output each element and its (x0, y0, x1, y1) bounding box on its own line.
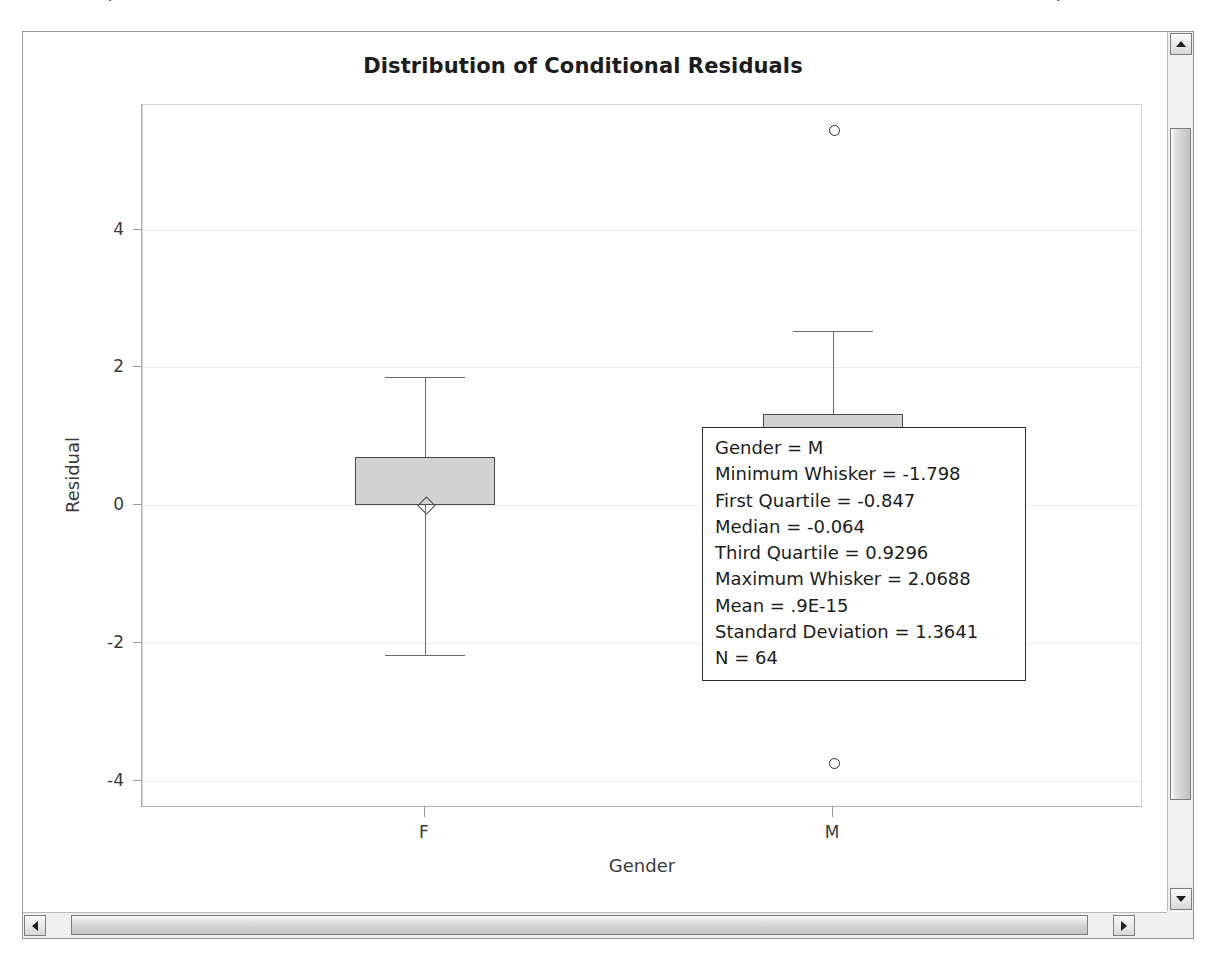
y-tick-mark-0 (133, 504, 142, 505)
x-tick-label-m: M (792, 822, 872, 842)
x-tick-mark-f (424, 807, 425, 817)
box-m-outlier-low[interactable] (829, 758, 840, 769)
box-f-lower-cap (385, 655, 465, 656)
tooltip-line-std-dev: Standard Deviation = 1.3641 (715, 619, 1013, 645)
chart-canvas: Distribution of Conditional Residuals (24, 33, 1142, 888)
chart-scroll-window: Distribution of Conditional Residuals (22, 31, 1194, 939)
y-axis-line (141, 104, 142, 807)
gridline-neg4 (143, 781, 1141, 782)
y-axis-title: Residual (62, 437, 83, 513)
vertical-scrollbar[interactable] (1167, 32, 1193, 911)
y-tick-mark-neg4 (133, 780, 142, 781)
tooltip-line-max-whisker: Maximum Whisker = 2.0688 (715, 566, 1013, 592)
tooltip-line-third-quartile: Third Quartile = 0.9296 (715, 540, 1013, 566)
gridline-2 (143, 367, 1141, 368)
tooltip-line-gender: Gender = M (715, 435, 1013, 461)
tooltip-line-median: Median = -0.064 (715, 514, 1013, 540)
scroll-right-button[interactable] (1113, 915, 1135, 936)
gridline-4 (143, 230, 1141, 231)
clipped-glyph-left: . (108, 0, 112, 4)
triangle-right-icon (1121, 921, 1127, 931)
triangle-down-icon (1176, 896, 1186, 902)
y-tick-label-4: 4 (64, 219, 124, 239)
y-tick-label-neg2: -2 (64, 632, 124, 652)
scrollbar-corner (1167, 912, 1193, 938)
tooltip-line-first-quartile: First Quartile = -0.847 (715, 488, 1013, 514)
box-m-outlier-high[interactable] (829, 125, 840, 136)
x-axis-line (141, 806, 1142, 807)
clipped-text-strip: . . (0, 0, 1218, 16)
box-m-upper-whisker (833, 331, 834, 415)
scroll-left-button[interactable] (24, 915, 46, 936)
box-f-lower-whisker (425, 505, 426, 655)
chart-title: Distribution of Conditional Residuals (24, 54, 1142, 78)
tooltip-line-n: N = 64 (715, 645, 1013, 671)
scroll-up-button[interactable] (1170, 33, 1192, 55)
y-tick-label-neg4: -4 (64, 770, 124, 790)
y-tick-label-2: 2 (64, 356, 124, 376)
triangle-up-icon (1176, 41, 1186, 47)
clipped-glyph-right: . (1056, 0, 1060, 4)
tooltip-line-mean: Mean = .9E-15 (715, 593, 1013, 619)
triangle-left-icon (32, 921, 38, 931)
y-tick-mark-neg2 (133, 642, 142, 643)
x-axis-title: Gender (142, 855, 1142, 876)
x-tick-mark-m (832, 807, 833, 817)
vertical-scrollbar-thumb[interactable] (1170, 128, 1191, 800)
horizontal-scrollbar-thumb[interactable] (71, 915, 1088, 935)
tooltip-line-min-whisker: Minimum Whisker = -1.798 (715, 461, 1013, 487)
boxplot-tooltip: Gender = M Minimum Whisker = -1.798 Firs… (702, 427, 1026, 681)
y-tick-mark-4 (133, 229, 142, 230)
y-tick-mark-2 (133, 366, 142, 367)
x-tick-label-f: F (384, 822, 464, 842)
scroll-down-button[interactable] (1170, 888, 1192, 910)
horizontal-scrollbar[interactable] (23, 912, 1167, 938)
